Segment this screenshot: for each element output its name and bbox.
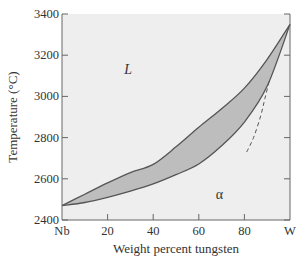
y-tick-label: 3200 (34, 48, 59, 62)
y-tick-label: 2800 (34, 131, 59, 145)
x-axis-title: Weight percent tungsten (113, 241, 240, 256)
y-tick-label: 3400 (34, 7, 59, 21)
x-tick-label: 60 (193, 224, 206, 238)
y-axis-title: Temperature (°C) (5, 71, 20, 162)
region-label: α (216, 187, 224, 202)
x-tick-label: 40 (147, 224, 160, 238)
x-tick-label: 20 (101, 224, 114, 238)
y-tick-label: 3000 (34, 89, 59, 103)
x-tick-label: Nb (54, 224, 69, 238)
x-tick-label: W (284, 224, 296, 238)
phase-diagram: 240026002800300032003400Nb20406080W Temp… (0, 0, 308, 265)
region-label: L (123, 62, 132, 77)
x-tick-label: 80 (238, 224, 251, 238)
y-tick-label: 2600 (34, 172, 59, 186)
